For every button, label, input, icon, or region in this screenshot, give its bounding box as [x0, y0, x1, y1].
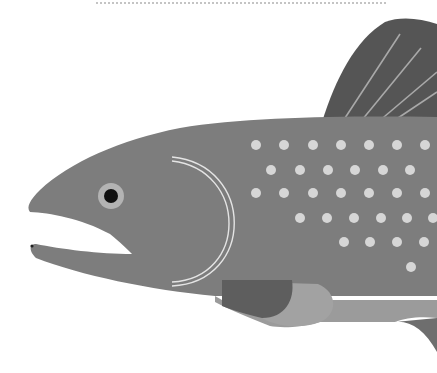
spot: [392, 237, 402, 247]
spot: [279, 140, 289, 150]
spot: [295, 165, 305, 175]
jaw-tip-mark: [30, 244, 33, 247]
spot: [364, 140, 374, 150]
spot: [349, 213, 359, 223]
spot: [364, 188, 374, 198]
spot: [420, 188, 430, 198]
fish-illustration: Fish head illustration (salmon / trout): [0, 0, 437, 373]
spot: [251, 140, 261, 150]
spot: [405, 165, 415, 175]
spot: [295, 213, 305, 223]
lower-body-edge: [395, 318, 437, 352]
spot: [308, 188, 318, 198]
spot: [339, 237, 349, 247]
spot: [308, 140, 318, 150]
eye: [98, 183, 124, 209]
spot: [350, 165, 360, 175]
fish-graphic: [0, 0, 437, 373]
spot: [402, 213, 412, 223]
spot: [365, 237, 375, 247]
spot: [376, 213, 386, 223]
dorsal-fin: [322, 18, 437, 122]
spot: [336, 140, 346, 150]
spot: [419, 237, 429, 247]
spot: [336, 188, 346, 198]
spot: [251, 188, 261, 198]
pupil: [104, 189, 118, 203]
spot: [392, 140, 402, 150]
spot: [279, 188, 289, 198]
spot: [420, 140, 430, 150]
spot: [322, 213, 332, 223]
pectoral-fin: [222, 280, 333, 326]
spot: [266, 165, 276, 175]
spot: [392, 188, 402, 198]
spot: [406, 262, 416, 272]
spot: [323, 165, 333, 175]
spot: [378, 165, 388, 175]
